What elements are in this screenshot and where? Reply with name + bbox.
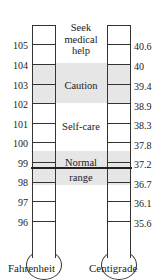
- f-tick-label: 102: [4, 100, 28, 110]
- f-tick-label: 105: [4, 41, 28, 51]
- f-tick: [32, 44, 55, 45]
- c-tick: [107, 44, 130, 45]
- c-tick-label: 39.4: [134, 82, 152, 92]
- zone-caution: Caution: [55, 80, 107, 92]
- f-tick: [32, 201, 55, 202]
- f-tick: [32, 182, 55, 183]
- f-tick: [32, 123, 55, 124]
- zone-normal: Normal range: [55, 155, 107, 185]
- c-tick: [107, 84, 130, 85]
- f-tick-label: 96: [4, 218, 28, 228]
- f-tick-label: 103: [4, 81, 28, 91]
- f-tick-label: 98: [4, 178, 28, 188]
- f-tick: [32, 84, 55, 85]
- c-tick: [107, 64, 130, 65]
- c-tick: [107, 221, 130, 222]
- c-tick-label: 37.2: [134, 160, 152, 170]
- f-tick-label: 99: [4, 159, 28, 169]
- f-tick: [32, 103, 55, 104]
- c-tick-label: 37.8: [134, 141, 152, 151]
- f-tick-label: 100: [4, 139, 28, 149]
- c-tick-label: 38.9: [134, 102, 152, 112]
- f-tick: [32, 162, 55, 163]
- f-tick: [32, 221, 55, 222]
- c-tick: [107, 123, 130, 124]
- normal-temperature-line: [31, 167, 132, 169]
- c-tick: [107, 142, 130, 143]
- c-tick: [107, 162, 130, 163]
- c-tick-label: 35.6: [134, 219, 152, 229]
- fahrenheit-title: Fahrenheit: [8, 262, 55, 274]
- f-tick: [32, 64, 55, 65]
- c-tick-label: 40.6: [134, 42, 152, 52]
- c-tick: [107, 182, 130, 183]
- c-tick: [107, 103, 130, 104]
- zone-seek-help: Seek medical help: [56, 22, 106, 57]
- f-tick-label: 97: [4, 198, 28, 208]
- f-tick-label: 101: [4, 120, 28, 130]
- centigrade-title: Centigrade: [89, 262, 137, 274]
- c-tick-label: 40: [134, 62, 144, 72]
- f-tick-label: 104: [4, 61, 28, 71]
- f-tick: [32, 142, 55, 143]
- c-tick-label: 38.3: [134, 121, 152, 131]
- c-tick-label: 36.1: [134, 199, 152, 209]
- zone-self-care: Self-care: [55, 121, 107, 133]
- c-tick: [107, 201, 130, 202]
- c-tick-label: 36.7: [134, 180, 152, 190]
